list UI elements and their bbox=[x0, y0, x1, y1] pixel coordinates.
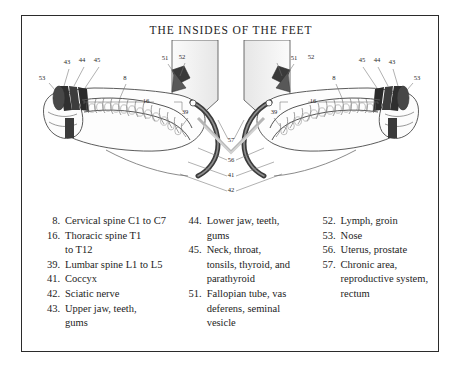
legend-entry-number: 52. bbox=[316, 214, 341, 229]
callout-56-center: 56 bbox=[228, 156, 235, 163]
legend-entry-label: Lower jaw, teeth,gums bbox=[207, 214, 280, 243]
legend-entry-label: Sciatic nerve bbox=[65, 287, 120, 302]
legend-entry-number: 41. bbox=[40, 272, 65, 287]
feet-diagram: 5343444581639515257564142515239168454443… bbox=[22, 40, 440, 210]
legend-entry-line: deferens, seminal bbox=[207, 302, 287, 317]
legend-entry: 8.Cervical spine C1 to C7 bbox=[40, 214, 182, 229]
illustration-frame: THE INSIDES OF THE FEET bbox=[21, 15, 439, 352]
legend-entry-label: Neck, throat,tonsils, thyroid, andparath… bbox=[207, 243, 290, 287]
legend-entry-label: Thoracic spine T1to T12 bbox=[65, 229, 141, 258]
legend-entry-line: reproductive system, bbox=[341, 272, 428, 287]
right-toe-reflex-bands bbox=[373, 86, 409, 111]
legend-entry-number: 45. bbox=[182, 243, 207, 258]
legend-entry-number: 51. bbox=[182, 287, 207, 302]
callout-51-right_foot: 51 bbox=[291, 54, 298, 61]
legend-entry-label: Chronic area,reproductive system,rectum bbox=[341, 258, 428, 302]
legend-entry-label: Uterus, prostate bbox=[341, 243, 407, 258]
callout-43-left_foot: 43 bbox=[64, 58, 71, 65]
right-sciatic-node bbox=[266, 100, 272, 106]
legend-entry-line: vesicle bbox=[207, 316, 287, 331]
legend-entry-line: Lymph, groin bbox=[341, 214, 398, 229]
legend-entry-line: gums bbox=[65, 316, 137, 331]
legend-entry-line: Fallopian tube, vas bbox=[207, 287, 287, 302]
legend-entry-number: 56. bbox=[316, 243, 341, 258]
legend: 8.Cervical spine C1 to C716.Thoracic spi… bbox=[22, 214, 440, 331]
legend-entry: 57.Chronic area,reproductive system,rect… bbox=[316, 258, 440, 302]
left-toe-reflex-bands bbox=[53, 86, 89, 111]
legend-entry-line: Lower jaw, teeth, bbox=[207, 214, 280, 229]
callout-45-right_foot: 45 bbox=[359, 56, 366, 63]
legend-entry: 44.Lower jaw, teeth,gums bbox=[182, 214, 316, 243]
right-throat-strip bbox=[388, 118, 397, 138]
legend-entry-number: 43. bbox=[40, 302, 65, 317]
legend-entry: 51.Fallopian tube, vasdeferens, seminalv… bbox=[182, 287, 316, 331]
legend-entry-number: 8. bbox=[40, 214, 65, 229]
callout-39-left_foot: 39 bbox=[182, 108, 189, 115]
left-sole-line bbox=[106, 150, 188, 176]
legend-entry-line: Cervical spine C1 to C7 bbox=[65, 214, 166, 229]
callout-44-left_foot: 44 bbox=[79, 56, 86, 63]
callout-52-right_foot: 52 bbox=[308, 53, 315, 60]
legend-entry-label: Upper jaw, teeth,gums bbox=[65, 302, 137, 331]
legend-entry: 45.Neck, throat,tonsils, thyroid, andpar… bbox=[182, 243, 316, 287]
callout-41-center: 41 bbox=[228, 171, 235, 178]
legend-entry-label: Lymph, groin bbox=[341, 214, 398, 229]
legend-entry-line: Upper jaw, teeth, bbox=[65, 302, 137, 317]
page-title: THE INSIDES OF THE FEET bbox=[22, 24, 440, 36]
legend-entry-number: 16. bbox=[40, 229, 65, 244]
callout-53-right_foot: 53 bbox=[414, 74, 421, 81]
legend-entry-line: to T12 bbox=[65, 243, 141, 258]
callout-51-left_foot: 51 bbox=[162, 54, 169, 61]
right-sole-line bbox=[274, 150, 356, 176]
callout-45-left_foot: 45 bbox=[94, 56, 101, 63]
legend-column-1: 44.Lower jaw, teeth,gums45.Neck, throat,… bbox=[182, 214, 316, 331]
legend-entry-line: tonsils, thyroid, and bbox=[207, 258, 290, 273]
legend-entry-number: 57. bbox=[316, 258, 341, 273]
legend-entry-line: Sciatic nerve bbox=[65, 287, 120, 302]
legend-entry: 42.Sciatic nerve bbox=[40, 287, 182, 302]
legend-entry: 39.Lumbar spine L1 to L5 bbox=[40, 258, 182, 273]
page-root: THE INSIDES OF THE FEET bbox=[0, 0, 461, 370]
legend-entry-number: 44. bbox=[182, 214, 207, 229]
callout-53-left_foot: 53 bbox=[39, 74, 46, 81]
legend-entry-line: Thoracic spine T1 bbox=[65, 229, 141, 244]
legend-entry-label: Cervical spine C1 to C7 bbox=[65, 214, 166, 229]
legend-entry-label: Coccyx bbox=[65, 272, 97, 287]
legend-entry-line: Coccyx bbox=[65, 272, 97, 287]
legend-entry: 43.Upper jaw, teeth,gums bbox=[40, 302, 182, 331]
callout-57-center: 57 bbox=[228, 136, 235, 143]
callout-39-right_foot: 39 bbox=[271, 108, 278, 115]
left-throat-strip bbox=[65, 118, 74, 138]
callout-43-right_foot: 43 bbox=[389, 58, 396, 65]
callout-8-right_foot: 8 bbox=[332, 74, 336, 81]
legend-entry: 16.Thoracic spine T1to T12 bbox=[40, 229, 182, 258]
callout-16-left_foot: 16 bbox=[143, 97, 150, 104]
feet-diagram-svg: 5343444581639515257564142515239168454443… bbox=[22, 40, 440, 210]
legend-entry: 53.Nose bbox=[316, 229, 440, 244]
callout-8-left_foot: 8 bbox=[123, 74, 127, 81]
legend-entry: 41.Coccyx bbox=[40, 272, 182, 287]
legend-entry-line: Lumbar spine L1 to L5 bbox=[65, 258, 162, 273]
legend-entry-line: Neck, throat, bbox=[207, 243, 290, 258]
callout-44-right_foot: 44 bbox=[374, 56, 381, 63]
callout-52-left_foot: 52 bbox=[179, 53, 186, 60]
legend-column-0: 8.Cervical spine C1 to C716.Thoracic spi… bbox=[40, 214, 182, 331]
legend-entry-line: gums bbox=[207, 229, 280, 244]
legend-entry-line: rectum bbox=[341, 287, 428, 302]
legend-entry-label: Nose bbox=[341, 229, 363, 244]
legend-entry-number: 39. bbox=[40, 258, 65, 273]
legend-entry-line: parathyroid bbox=[207, 272, 290, 287]
callout-16-right_foot: 16 bbox=[310, 97, 317, 104]
legend-entry-line: Uterus, prostate bbox=[341, 243, 407, 258]
legend-entry-number: 53. bbox=[316, 229, 341, 244]
center-arch-band bbox=[198, 118, 264, 152]
legend-entry: 52.Lymph, groin bbox=[316, 214, 440, 229]
callout-42-center: 42 bbox=[228, 186, 235, 193]
legend-entry-line: Nose bbox=[341, 229, 363, 244]
left-sciatic-node bbox=[190, 100, 196, 106]
legend-entry-label: Lumbar spine L1 to L5 bbox=[65, 258, 162, 273]
legend-column-2: 52.Lymph, groin53.Nose56.Uterus, prostat… bbox=[316, 214, 440, 331]
legend-entry-label: Fallopian tube, vasdeferens, seminalvesi… bbox=[207, 287, 287, 331]
legend-entry-line: Chronic area, bbox=[341, 258, 428, 273]
legend-entry: 56.Uterus, prostate bbox=[316, 243, 440, 258]
